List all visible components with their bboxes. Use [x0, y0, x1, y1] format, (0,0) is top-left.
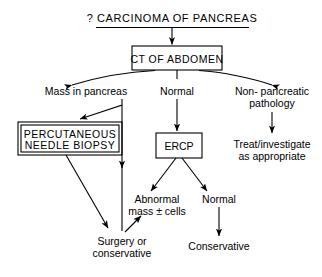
edge-ct-to-mass	[72, 71, 155, 86]
node-normal-ct: Normal	[160, 85, 194, 97]
node-surgery-line1: Surgery or	[97, 235, 147, 247]
node-non-pancreatic-pathology-line1: Non- pancreatic	[235, 85, 309, 97]
edge-mass-to-biopsy	[80, 99, 122, 119]
node-ercp: ERCP	[164, 140, 193, 152]
node-normal-ercp: Normal	[202, 193, 236, 205]
pancreas-carcinoma-flowchart: ? CARCINOMA OF PANCREAS CT OF ABDOMEN Ma…	[0, 0, 322, 277]
node-ct-of-abdomen: CT OF ABDOMEN	[130, 53, 223, 65]
node-abnormal-line1: Abnormal	[135, 193, 180, 205]
edge-surgery-to-abnormal	[125, 216, 141, 232]
node-surgery-line2: conservative	[93, 247, 152, 259]
node-percutaneous-line2: NEEDLE BIOPSY	[25, 139, 116, 151]
diagram-title: ? CARCINOMA OF PANCREAS	[87, 12, 258, 24]
node-mass-in-pancreas: Mass in pancreas	[45, 85, 127, 97]
node-treat-line2: as appropriate	[238, 150, 305, 162]
edge-ercp-to-normal	[182, 158, 207, 191]
node-conservative: Conservative	[188, 240, 249, 252]
edge-biopsy-to-surgery	[66, 155, 108, 228]
node-abnormal-line2: mass ± cells	[128, 205, 186, 217]
edge-ct-to-nonpancreatic	[199, 71, 272, 86]
node-non-pancreatic-pathology-line2: pathology	[249, 97, 295, 109]
edge-ercp-to-abnormal	[151, 158, 176, 191]
node-treat-line1: Treat/investigate	[233, 138, 310, 150]
